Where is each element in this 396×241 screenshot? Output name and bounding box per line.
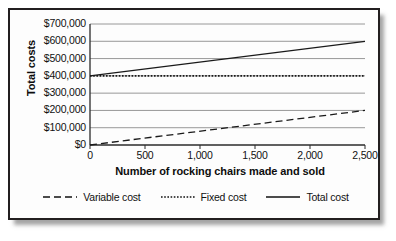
legend-swatch-solid [266, 193, 300, 201]
chart-legend: Variable costFixed costTotal cost [10, 191, 382, 203]
axis-lines [90, 24, 365, 145]
legend-item-fixed-cost: Fixed cost [161, 191, 247, 203]
legend-label: Variable cost [83, 191, 140, 203]
legend-label: Fixed cost [201, 191, 247, 203]
legend-swatch-dotted [161, 193, 195, 201]
legend-label: Total cost [306, 191, 348, 203]
chart-figure-frame: Total costs Number of rocking chairs mad… [8, 8, 380, 220]
legend-swatch-dashed [43, 193, 77, 201]
legend-item-variable-cost: Variable cost [43, 191, 140, 203]
legend-item-total-cost: Total cost [266, 191, 348, 203]
